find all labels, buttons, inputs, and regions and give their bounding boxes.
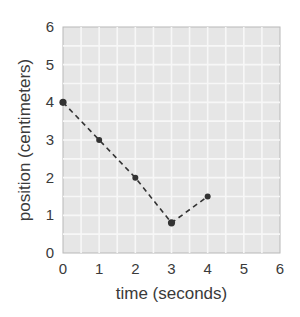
y-tick-label: 4 (46, 93, 54, 110)
y-tick-label: 6 (46, 18, 54, 35)
y-tick-label: 5 (46, 56, 54, 73)
chart: 0123456 0123456 time (seconds) position … (0, 0, 300, 317)
y-axis-label: position (centimeters) (15, 59, 34, 222)
x-tick-label: 3 (167, 260, 175, 277)
data-point (168, 219, 175, 226)
data-point (59, 99, 66, 106)
x-tick-label: 1 (95, 260, 103, 277)
x-tick-label: 4 (203, 260, 211, 277)
y-tick-label: 1 (46, 206, 54, 223)
x-tick-label: 2 (131, 260, 139, 277)
y-axis-ticks: 0123456 (46, 18, 54, 261)
x-tick-label: 5 (240, 260, 248, 277)
data-point (205, 194, 211, 200)
y-tick-label: 3 (46, 131, 54, 148)
x-tick-label: 0 (59, 260, 67, 277)
data-point (96, 137, 102, 143)
y-tick-label: 0 (46, 244, 54, 261)
x-axis-label: time (seconds) (116, 284, 227, 303)
y-tick-label: 2 (46, 169, 54, 186)
data-point (132, 175, 138, 181)
x-axis-ticks: 0123456 (59, 260, 284, 277)
x-tick-label: 6 (276, 260, 284, 277)
